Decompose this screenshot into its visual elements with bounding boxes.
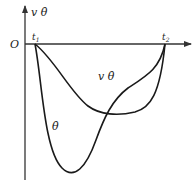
y-axis-label: v θ̇ <box>31 6 48 19</box>
tick-label-t2: t2 <box>162 32 170 43</box>
curve-theta-dot <box>35 44 165 173</box>
origin-label: O <box>10 38 19 51</box>
diagram-canvas: v θ̇ O t1 t2 v θ̇ θ̇ <box>0 0 193 189</box>
curve-label-theta-dot: θ̇ <box>52 120 59 133</box>
curve-label-v-theta-dot: v θ̇ <box>98 70 115 83</box>
tick-label-t1: t1 <box>32 32 39 43</box>
